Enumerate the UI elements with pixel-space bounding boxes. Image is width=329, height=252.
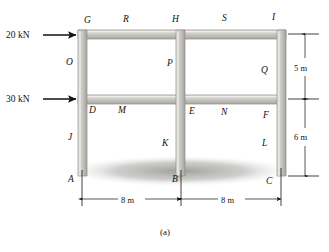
dimension-label-span-right: 8 m	[221, 195, 234, 205]
force-label-30kN: 30 kN	[6, 94, 30, 104]
joint-label-P: P	[166, 58, 173, 68]
joint-label-N: N	[220, 107, 228, 117]
joint-label-F: F	[262, 110, 269, 120]
dimension-label-5m: 5 m	[294, 63, 307, 73]
joint-label-I: I	[271, 12, 276, 22]
dimension-label-6m: 6 m	[294, 132, 307, 142]
joint-label-E: E	[188, 106, 195, 116]
label-layer: 20 kN 30 kN 5 m 6 m 8 m 8 m G R H S I O …	[0, 0, 329, 252]
force-label-20kN: 20 kN	[6, 30, 30, 40]
joint-label-Q: Q	[261, 65, 268, 75]
joint-label-S: S	[222, 13, 227, 23]
joint-label-R: R	[122, 14, 129, 24]
joint-label-A: A	[67, 174, 74, 184]
figure-caption: (a)	[160, 227, 170, 237]
joint-label-B: B	[172, 174, 178, 184]
joint-label-J: J	[68, 132, 73, 142]
joint-label-K: K	[161, 138, 169, 148]
joint-label-D: D	[88, 105, 96, 115]
joint-label-L: L	[261, 138, 267, 148]
joint-label-G: G	[84, 15, 91, 25]
joint-label-C: C	[266, 176, 273, 186]
joint-label-H: H	[171, 14, 180, 24]
frame-diagram-figure: 20 kN 30 kN 5 m 6 m 8 m 8 m G R H S I O …	[0, 0, 329, 252]
dimension-label-span-left: 8 m	[121, 195, 134, 205]
joint-label-O: O	[66, 57, 73, 67]
joint-label-M: M	[117, 105, 127, 115]
